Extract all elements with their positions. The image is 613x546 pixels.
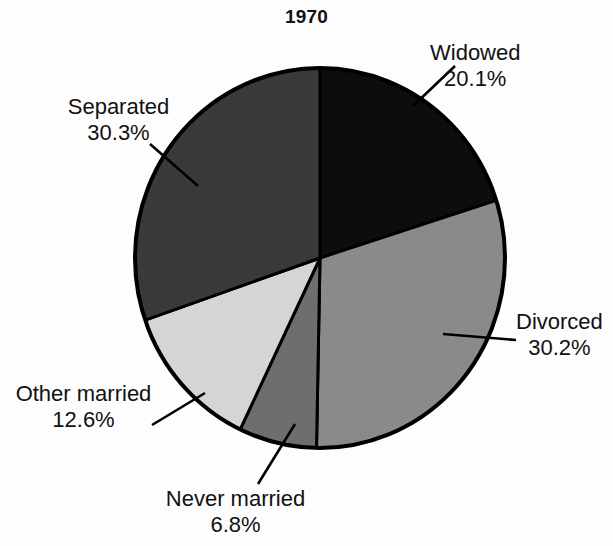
slice-label-other-married-value: 12.6% (6, 407, 161, 433)
slice-label-widowed-value: 20.1% (430, 66, 520, 92)
slice-label-separated-name: Separated (56, 94, 181, 120)
slice-label-never-married-value: 6.8% (143, 512, 328, 538)
slice-label-never-married: Never married 6.8% (143, 486, 328, 537)
slice-label-other-married: Other married 12.6% (6, 381, 161, 432)
slice-label-divorced-name: Divorced (516, 309, 603, 335)
slice-label-divorced-value: 30.2% (516, 335, 603, 361)
slice-label-other-married-name: Other married (6, 381, 161, 407)
slice-label-widowed: Widowed 20.1% (430, 40, 520, 91)
slice-label-widowed-name: Widowed (430, 40, 520, 66)
slice-label-never-married-name: Never married (143, 486, 328, 512)
pie-chart-figure: 1970 Widowed 20.1% Divorced 30.2% Separa… (0, 0, 613, 546)
slice-label-separated-value: 30.3% (56, 120, 181, 146)
slice-label-separated: Separated 30.3% (56, 94, 181, 145)
pie-chart-graphic (0, 0, 613, 546)
slice-label-divorced: Divorced 30.2% (516, 309, 603, 360)
